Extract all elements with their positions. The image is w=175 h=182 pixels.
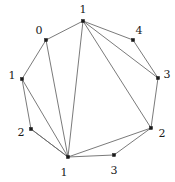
graph-figure: 143231210 — [0, 0, 175, 182]
graph-edge — [46, 40, 68, 157]
vertex-label: 3 — [111, 165, 118, 176]
graph-vertex — [156, 76, 159, 79]
graph-edge — [68, 21, 83, 157]
graph-edge — [114, 128, 151, 155]
graph-edge — [133, 40, 158, 78]
vertex-label: 2 — [159, 128, 166, 139]
graph-vertex — [66, 155, 69, 158]
vertex-layer — [20, 19, 159, 158]
graph-vertex — [81, 19, 84, 22]
vertex-label: 1 — [9, 70, 16, 81]
edge-layer — [22, 21, 158, 157]
graph-edge — [68, 155, 114, 157]
vertex-label: 4 — [136, 25, 143, 36]
graph-edge — [46, 21, 83, 40]
graph-edge — [83, 21, 151, 128]
vertex-label: 0 — [36, 25, 43, 36]
graph-edge — [22, 40, 46, 79]
graph-vertex — [131, 38, 134, 41]
vertex-label: 1 — [80, 4, 87, 15]
graph-edge — [68, 128, 151, 157]
graph-edge — [151, 78, 158, 128]
vertex-label: 3 — [164, 69, 171, 80]
graph-vertex — [112, 153, 115, 156]
graph-canvas — [0, 0, 175, 182]
graph-vertex — [20, 77, 23, 80]
graph-vertex — [29, 127, 32, 130]
vertex-label: 1 — [61, 167, 68, 178]
vertex-label: 2 — [18, 127, 25, 138]
graph-edge — [31, 129, 68, 157]
graph-edge — [83, 21, 158, 78]
graph-edge — [83, 21, 133, 40]
graph-vertex — [44, 38, 47, 41]
graph-vertex — [149, 126, 152, 129]
